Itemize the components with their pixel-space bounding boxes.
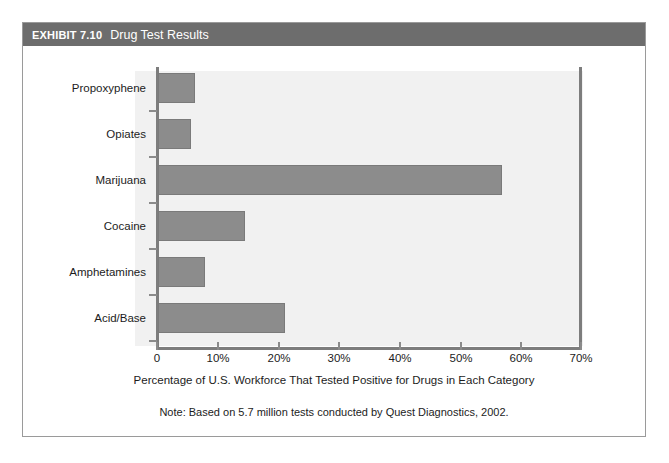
value-tick-label: 0 — [154, 352, 160, 364]
exhibit-number: EXHIBIT 7.10 — [32, 29, 102, 41]
bar-acid-base — [158, 303, 285, 333]
value-tick-label: 10% — [206, 352, 229, 364]
bar-opiates — [158, 119, 191, 149]
bar-marijuana — [158, 165, 502, 195]
value-tick — [520, 342, 522, 350]
value-tick-label: 70% — [569, 352, 592, 364]
chart-note: Note: Based on 5.7 million tests conduct… — [23, 406, 645, 418]
value-tick — [217, 342, 219, 350]
value-tick-label: 30% — [327, 352, 350, 364]
category-tick — [149, 248, 157, 250]
category-label: Amphetamines — [69, 266, 146, 278]
value-tick-label: 40% — [388, 352, 411, 364]
value-tick-label: 20% — [267, 352, 290, 364]
x-axis-caption: Percentage of U.S. Workforce That Tested… — [23, 374, 645, 386]
category-label: Propoxyphene — [72, 82, 146, 94]
value-tick-label: 50% — [449, 352, 472, 364]
bar-propoxyphene — [158, 73, 195, 103]
category-label: Acid/Base — [94, 312, 146, 324]
bar-amphetamines — [158, 257, 205, 287]
category-label: Cocaine — [104, 220, 146, 232]
value-tick — [399, 342, 401, 350]
category-label: Marijuana — [96, 174, 147, 186]
value-tick — [278, 342, 280, 350]
value-tick — [338, 342, 340, 350]
plot-right-edge-line — [579, 67, 582, 350]
value-tick — [156, 342, 158, 350]
value-tick — [460, 342, 462, 350]
value-axis-line — [156, 347, 582, 350]
category-tick — [149, 110, 157, 112]
exhibit-title: Drug Test Results — [110, 28, 208, 42]
category-tick — [149, 202, 157, 204]
bar-cocaine — [158, 211, 245, 241]
value-tick — [580, 342, 582, 350]
category-label: Opiates — [106, 128, 146, 140]
category-tick — [149, 156, 157, 158]
value-tick-label: 60% — [509, 352, 532, 364]
exhibit-header-bar: EXHIBIT 7.10 Drug Test Results — [23, 23, 645, 46]
chart-region: Propoxyphene Opiates Marijuana Cocaine A… — [23, 46, 645, 437]
exhibit-frame: EXHIBIT 7.10 Drug Test Results Propoxyph… — [22, 22, 646, 437]
category-tick — [149, 294, 157, 296]
